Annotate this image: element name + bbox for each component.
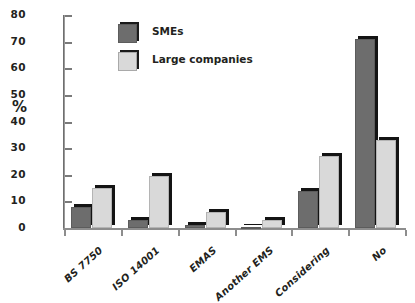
x-tick-mark	[64, 230, 66, 236]
y-tick-label: 50	[0, 88, 26, 100]
bar-iso-14001-smes	[128, 220, 148, 228]
y-tick-label: 10	[0, 194, 26, 206]
bar-chart: % 01020304050607080 BS 7750ISO 14001EMAS…	[0, 0, 415, 303]
y-tick-mark	[65, 15, 72, 17]
y-tick-mark	[65, 201, 72, 203]
x-tick-mark	[405, 230, 407, 236]
x-tick-mark	[291, 230, 293, 236]
y-tick-mark	[65, 122, 72, 124]
y-tick-label: 20	[0, 168, 26, 180]
x-label-no: No	[325, 244, 389, 303]
x-tick-mark	[235, 230, 237, 236]
bar-considering-large-companies	[319, 156, 339, 228]
y-tick-mark	[65, 95, 72, 97]
legend-label-large-companies: Large companies	[152, 53, 253, 65]
bar-no-large-companies	[376, 140, 396, 228]
y-tick-label: 80	[0, 8, 26, 20]
y-tick-label: 70	[0, 35, 26, 47]
y-tick-label: 60	[0, 61, 26, 73]
legend-swatch-smes	[118, 24, 137, 43]
x-label-iso-14001: ISO 14001	[98, 244, 162, 303]
bar-bs-7750-smes	[71, 207, 91, 228]
bar-emas-large-companies	[206, 212, 226, 228]
y-tick-mark	[65, 68, 72, 70]
y-tick-mark	[65, 148, 72, 150]
bar-another-ems-smes	[241, 227, 261, 229]
bar-emas-smes	[185, 225, 205, 228]
x-label-emas: EMAS	[154, 244, 218, 303]
legend-label-smes: SMEs	[152, 25, 183, 37]
bar-bs-7750-large-companies	[92, 188, 112, 228]
y-tick-label: 30	[0, 141, 26, 153]
y-tick-mark	[65, 175, 72, 177]
bar-no-smes	[355, 39, 375, 228]
bar-another-ems-large-companies	[262, 220, 282, 228]
y-tick-mark	[65, 42, 72, 44]
y-tick-label: 0	[0, 221, 26, 233]
y-axis-title: %	[12, 98, 27, 116]
y-tick-label: 40	[0, 115, 26, 127]
bar-considering-smes	[298, 191, 318, 228]
x-tick-mark	[348, 230, 350, 236]
x-tick-mark	[121, 230, 123, 236]
bar-iso-14001-large-companies	[149, 176, 169, 228]
x-tick-mark	[178, 230, 180, 236]
x-label-bs-7750: BS 7750	[41, 244, 105, 303]
x-label-considering: Considering	[268, 244, 332, 303]
x-label-another-ems: Another EMS	[211, 244, 275, 303]
legend-swatch-large-companies	[118, 52, 137, 71]
